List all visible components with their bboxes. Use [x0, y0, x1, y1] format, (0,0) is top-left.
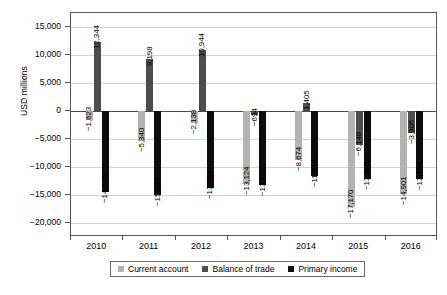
- x-axis-tick-label: 2015: [348, 241, 368, 251]
- bar-value-label: −14,548: [100, 175, 109, 203]
- legend-label: Balance of trade: [212, 264, 274, 274]
- x-axis-tick-mark: [385, 236, 386, 240]
- bar-value-label: −6,148: [354, 132, 363, 156]
- legend-label: Primary income: [298, 264, 357, 274]
- x-axis-tick-label: 2013: [243, 241, 263, 251]
- gridline: [71, 83, 436, 84]
- legend-item[interactable]: Current account: [118, 264, 188, 274]
- x-axis-tick-label: 2010: [86, 241, 106, 251]
- bar-value-label: −13,124: [242, 167, 251, 195]
- gridline: [71, 195, 436, 196]
- bar-value-label: −12,152: [415, 162, 424, 190]
- x-axis-tick-label: 2014: [296, 241, 316, 251]
- bar-value-label: −8,674: [294, 146, 303, 170]
- x-axis-tick-label: 2012: [191, 241, 211, 251]
- legend-label: Current account: [128, 264, 188, 274]
- bar[interactable]: [199, 50, 206, 111]
- gridline: [71, 167, 436, 168]
- bar-value-label: −13,165: [258, 167, 267, 195]
- bar-value-label: 10,944: [197, 33, 206, 57]
- bar-chart-figure: USD millions 15,00010,0005,0000−5,000−10…: [0, 0, 447, 295]
- bar-value-label: 9,198: [145, 47, 154, 67]
- gridline: [71, 139, 436, 140]
- bar-value-label: −5,340: [137, 128, 146, 152]
- legend-swatch-icon: [202, 266, 208, 272]
- legend-swatch-icon: [288, 266, 294, 272]
- x-axis-tick-mark: [332, 236, 333, 240]
- bar-value-label: −13,754: [205, 171, 214, 199]
- bar-value-label: −17,170: [346, 190, 355, 218]
- bar-value-label: −12,105: [362, 161, 371, 189]
- bar[interactable]: [146, 59, 153, 111]
- bar-value-label: −1,623: [84, 107, 93, 131]
- bar-value-label: −14,901: [399, 177, 408, 205]
- bar-value-label: −3,905: [407, 120, 416, 144]
- legend-item[interactable]: Balance of trade: [202, 264, 274, 274]
- x-axis-tick-label: 2016: [401, 241, 421, 251]
- x-axis-tick-mark: [175, 236, 176, 240]
- gridline: [71, 27, 436, 28]
- bar-value-label: 1,405: [302, 91, 311, 111]
- bar-value-label: −11,614: [310, 159, 319, 187]
- legend-item[interactable]: Primary income: [288, 264, 357, 274]
- gridline: [71, 223, 436, 224]
- x-axis-tick-labels: 2010201120122013201420152016: [70, 241, 437, 255]
- chart-legend: Current accountBalance of tradePrimary i…: [110, 261, 365, 277]
- x-axis-tick-mark: [436, 236, 437, 240]
- x-axis-tick-label: 2011: [139, 241, 158, 251]
- bar[interactable]: [94, 42, 101, 111]
- x-axis-tick-mark: [122, 236, 123, 240]
- bar-value-label: −2,138: [189, 110, 198, 134]
- legend-swatch-icon: [118, 266, 124, 272]
- bar-value-label: −694: [250, 108, 259, 126]
- bar-value-label: −15,073: [153, 178, 162, 206]
- bar-value-label: 12,344: [92, 25, 101, 49]
- x-axis-tick-mark: [227, 236, 228, 240]
- plot-area: −1,62312,344−14,548−5,3409,198−15,073−2,…: [70, 12, 437, 236]
- gridline: [71, 55, 436, 56]
- x-axis-tick-mark: [70, 236, 71, 240]
- x-axis-tick-mark: [280, 236, 281, 240]
